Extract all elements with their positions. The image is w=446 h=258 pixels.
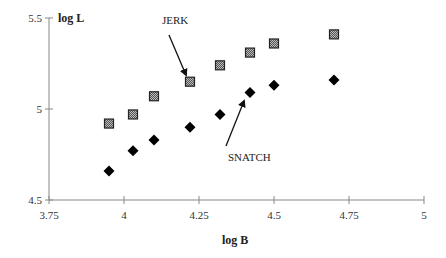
jerk-point-square xyxy=(270,39,279,48)
scatter-chart: 4.555.5 3.7544.254.54.755 JERKSNATCH log… xyxy=(0,0,446,258)
y-axis: 4.555.5 xyxy=(28,12,53,206)
jerk-point-square xyxy=(186,77,195,86)
snatch-point-diamond xyxy=(104,165,115,176)
annotation-arrow-icon xyxy=(226,101,244,146)
y-axis-title: log L xyxy=(58,11,84,25)
annotation-label-snatch: SNATCH xyxy=(228,151,271,163)
annotation-label-jerk: JERK xyxy=(162,14,188,26)
snatch-point-diamond xyxy=(215,109,226,120)
x-tick-label: 3.75 xyxy=(39,209,59,221)
x-tick-label: 4.75 xyxy=(339,209,359,221)
y-tick-label: 4.5 xyxy=(28,194,42,206)
jerk-point-square xyxy=(105,119,114,128)
jerk-point-square xyxy=(216,61,225,70)
y-tick-label: 5.5 xyxy=(28,12,42,24)
snatch-series xyxy=(104,74,340,176)
snatch-point-diamond xyxy=(149,134,160,145)
x-tick-label: 4 xyxy=(121,209,127,221)
snatch-point-diamond xyxy=(128,145,139,156)
annotations: JERKSNATCH xyxy=(162,14,271,163)
x-tick-label: 4.5 xyxy=(267,209,281,221)
jerk-point-square xyxy=(129,110,138,119)
snatch-point-diamond xyxy=(269,80,280,91)
snatch-point-diamond xyxy=(245,87,256,98)
annotation-arrow-icon xyxy=(169,35,186,75)
y-tick-label: 5 xyxy=(37,103,43,115)
snatch-point-diamond xyxy=(185,122,196,133)
x-axis: 3.7544.254.54.755 xyxy=(39,196,427,221)
jerk-point-square xyxy=(150,92,159,101)
jerk-point-square xyxy=(246,48,255,57)
x-axis-title: log B xyxy=(222,233,248,247)
x-tick-label: 5 xyxy=(421,209,427,221)
snatch-point-diamond xyxy=(329,74,340,85)
jerk-point-square xyxy=(330,30,339,39)
x-tick-label: 4.25 xyxy=(189,209,209,221)
